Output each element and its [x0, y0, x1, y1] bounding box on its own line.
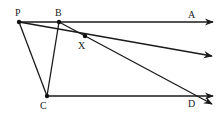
label-a: A: [188, 9, 196, 20]
label-b: B: [55, 7, 62, 18]
label-x: X: [78, 40, 86, 51]
segment-pc: [19, 22, 47, 96]
segment-bc: [47, 22, 59, 96]
ray-bx: [59, 22, 212, 104]
point-x: [83, 34, 87, 38]
point-p: [17, 20, 21, 24]
ray-px: [19, 22, 212, 56]
label-p: P: [15, 7, 21, 18]
geometry-diagram: P B X C A D: [0, 0, 224, 119]
label-c: C: [40, 100, 47, 111]
point-b: [57, 20, 61, 24]
point-c: [45, 94, 49, 98]
label-d: D: [188, 98, 195, 109]
